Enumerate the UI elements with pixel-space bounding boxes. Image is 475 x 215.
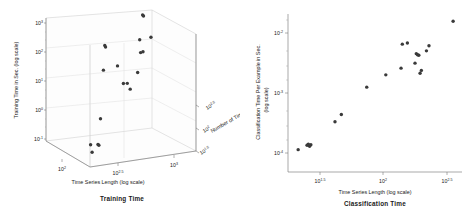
z-tick-3: 103 [35,20,43,26]
x2-tick-1e1p5-exp: 1.5 [320,178,325,182]
data-point [90,151,93,154]
y2-tick-m3-exp: -3 [280,90,283,94]
z-tick-1: 101 [35,78,43,84]
y2-tick-m3: 10-3 [274,90,283,96]
data-point [97,144,100,147]
x2-tick-1e2-exp: 2 [385,178,387,182]
x-axis-label-2d: Time Series Length (log scale) [339,189,412,195]
data-point [309,143,312,146]
x-tick-1e2p5: 102.5 [113,170,124,176]
figure-container: 103 102 101 100 10-1 102 102.5 103 [0,0,475,215]
data-point [451,20,454,23]
y-axis-label-line2: (log scale) [263,87,269,112]
axes-2d [288,14,462,172]
x-tick-1e2p5-exp: 2.5 [118,170,123,174]
z-tick-2: 102 [35,49,43,55]
z-tick-0-exp: 0 [41,107,43,111]
y-tick-1e1p5-exp: 1.5 [203,145,209,151]
data-point [102,68,105,71]
x-tick-1e2: 102 [58,166,66,172]
data-point [104,45,107,48]
data-point [138,38,141,41]
data-point [129,87,132,90]
y2-tick-m4-exp: -4 [280,150,283,154]
data-point [420,69,423,72]
y-tick-1e2p5: 102.5 [204,100,216,111]
x-tick-1e3: 103 [170,162,178,168]
y-tick-1e2p5-exp: 2.5 [209,100,215,106]
data-point [149,35,152,38]
z-tick-m1-exp: -1 [40,136,43,140]
axes-box [46,10,196,167]
data-point [116,64,119,67]
data-point [399,66,402,69]
z-axis: 103 102 101 100 10-1 [34,18,46,142]
classification-time-svg: 10-2 10-3 10-4 101.5 102 102.5 Classific… [240,0,475,215]
y2-tick-m2: 10-2 [274,30,283,36]
data-point [340,113,343,116]
data-point [89,143,92,146]
data-point [136,71,139,74]
data-point [122,82,125,85]
z-tick-0: 100 [35,107,43,113]
panel-title-training-time: Training Time [100,195,144,203]
chart-panel-training-time: 103 102 101 100 10-1 102 102.5 103 [0,0,240,215]
data-point [365,85,368,88]
data-point [384,73,387,76]
panel-title-classification-time: Classification Time [344,200,406,207]
z-tick-3-exp: 3 [41,20,43,24]
y-axis-2d: 10-2 10-3 10-4 [274,20,288,156]
data-point [99,117,102,120]
data-point [413,61,416,64]
x-axis-2d: 101.5 102 102.5 [315,172,453,184]
x2-tick-1e1p5: 101.5 [315,178,326,184]
y-axis-label: Number of Time Series (log scale) [210,88,241,134]
data-point [141,50,144,53]
x2-tick-1e2p5: 102.5 [442,178,453,184]
y2-tick-m2-exp: -2 [280,30,283,34]
x-tick-1e2-exp: 2 [64,166,66,170]
y-axis: 101.5 102 102.5 [196,34,217,156]
z-tick-1-exp: 1 [41,78,43,82]
x2-tick-1e2p5-exp: 2.5 [447,178,452,182]
z-tick-m1: 10-1 [34,136,43,142]
data-points-classification-time [296,20,454,152]
data-point [126,82,129,85]
x2-tick-1e2: 102 [379,178,387,184]
y-tick-1e1p5: 101.5 [198,145,210,156]
data-point [417,54,420,57]
x-tick-1e3-exp: 3 [176,162,178,166]
z-axis-label: Training Time in Sec. (log scale) [13,41,19,118]
data-point [333,120,336,123]
data-point [401,42,404,45]
y-axis-label-line1: Classification Time Per Example in Sec. [255,44,261,139]
data-point [142,14,145,17]
data-point [406,41,409,44]
data-point [296,148,299,151]
y2-tick-m4: 10-4 [274,150,283,156]
chart-panel-classification-time: 10-2 10-3 10-4 101.5 102 102.5 Classific… [240,0,475,215]
z-tick-2-exp: 2 [41,49,43,53]
training-time-svg: 103 102 101 100 10-1 102 102.5 103 [0,0,240,215]
data-point [425,49,428,52]
x-axis-label: Time Series Length (log scale) [72,179,145,185]
data-point [427,44,430,47]
